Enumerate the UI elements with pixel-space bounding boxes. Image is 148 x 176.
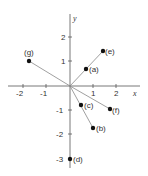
x-tick-label: 1	[91, 89, 96, 98]
point-c	[79, 103, 83, 107]
point-label-g: (g)	[24, 48, 34, 57]
y-tick-label: -1	[56, 106, 64, 115]
point-label-b: (b)	[96, 124, 106, 133]
x-tick-label: 2	[114, 89, 119, 98]
points	[27, 49, 112, 161]
point-label-a: (a)	[89, 65, 99, 74]
point-g	[27, 59, 31, 63]
point-label-d: (d)	[73, 155, 83, 164]
x-axis-label: x	[132, 89, 137, 98]
x-tick-label: -2	[16, 89, 24, 98]
y-tick-label: 1	[61, 57, 66, 66]
y-tick-label: 2	[61, 33, 66, 42]
point-a	[84, 67, 88, 71]
point-label-f: (f)	[112, 106, 120, 115]
y-tick-label: -3	[56, 155, 64, 164]
point-b	[91, 126, 95, 130]
coordinate-diagram: -2 -1 1 2 x 2 1 -1 -2 -3 y (a) (b) (c) (…	[0, 0, 148, 176]
y-tick-label: -2	[56, 130, 64, 139]
point-label-e: (e)	[105, 47, 115, 56]
point-d	[68, 157, 72, 161]
point-label-c: (c)	[84, 101, 94, 110]
x-tick-label: -1	[40, 89, 48, 98]
y-axis-label: y	[72, 14, 77, 23]
